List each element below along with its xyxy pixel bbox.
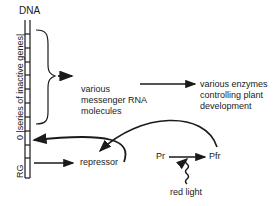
enzymes-label-line3: development	[200, 101, 252, 112]
mrna-label-line1: various	[81, 84, 110, 95]
rg-label: RG	[15, 165, 25, 179]
red-light-label: red light	[170, 187, 202, 198]
brace	[36, 30, 55, 124]
mrna-label-line3: molecules	[81, 106, 122, 117]
red-light-wave	[186, 159, 189, 184]
enzymes-label-line1: various enzymes	[200, 79, 268, 90]
dna-label: DNA	[19, 5, 40, 16]
enzymes-label-line2: controlling plant	[200, 90, 263, 101]
repressor-label: repressor	[80, 157, 118, 168]
pr-label: Pr	[156, 151, 165, 162]
pfr-label: Pfr	[209, 151, 221, 162]
mrna-label-line2: messenger RNA	[81, 95, 147, 106]
dna-strand	[25, 20, 30, 178]
inactive-genes-label: 0 |series of inactive genes|	[15, 34, 25, 140]
